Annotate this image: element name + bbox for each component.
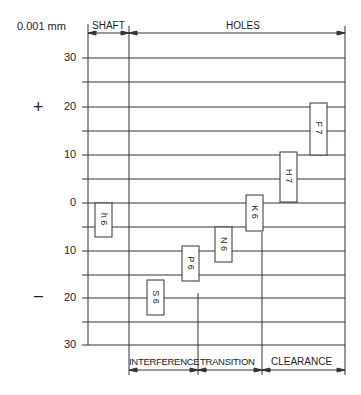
zone-label-f7: F 7 bbox=[314, 113, 324, 143]
y-tick-neg10: 10 bbox=[64, 244, 76, 256]
zone-label-k6: K 6 bbox=[250, 197, 260, 227]
zone-label-p6: P 6 bbox=[186, 248, 196, 278]
y-tick-10: 10 bbox=[64, 148, 76, 160]
y-tick-neg20: 20 bbox=[64, 291, 76, 303]
zone-label-h7: H 7 bbox=[284, 161, 294, 191]
plus-sign: + bbox=[33, 97, 44, 118]
holes-label: HOLES bbox=[226, 20, 260, 31]
unit-label: 0.001 mm bbox=[17, 20, 66, 32]
zone-label-s6: S 6 bbox=[151, 282, 161, 312]
y-tick-neg30: 30 bbox=[64, 338, 76, 350]
transition-label: TRANSITION bbox=[200, 356, 255, 367]
y-tick-30: 30 bbox=[64, 51, 76, 63]
clearance-label: CLEARANCE bbox=[271, 356, 332, 367]
y-tick-20: 20 bbox=[64, 100, 76, 112]
zone-label-n6: N 6 bbox=[219, 229, 229, 259]
y-tick-0: 0 bbox=[70, 196, 76, 208]
interference-label: INTERFERENCE bbox=[129, 356, 199, 367]
zone-label-h6: h 6 bbox=[99, 204, 109, 234]
minus-sign: – bbox=[34, 287, 43, 305]
shaft-label: SHAFT bbox=[92, 20, 125, 31]
